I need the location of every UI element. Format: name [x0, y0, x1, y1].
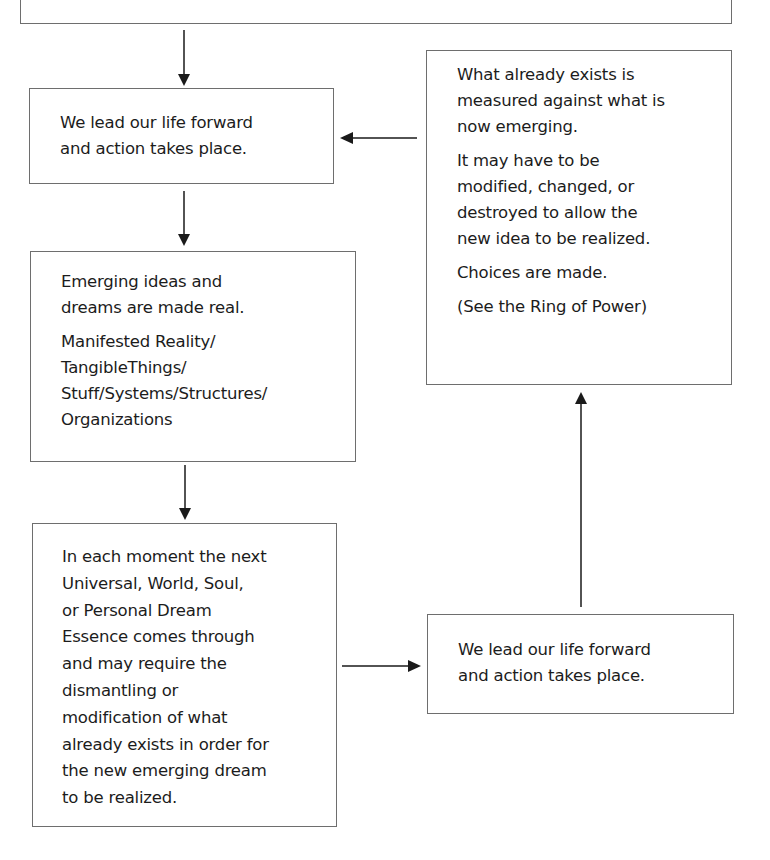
- arrow-left-icon: [340, 132, 417, 144]
- arrow-up-icon: [575, 392, 587, 607]
- arrow-right-icon: [342, 660, 421, 672]
- arrow-down-icon: [178, 191, 190, 246]
- arrow-down-icon: [178, 30, 190, 86]
- arrow-down-icon: [179, 465, 191, 520]
- connector-arrows: [0, 0, 770, 860]
